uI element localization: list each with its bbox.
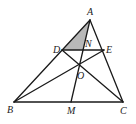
segment-ac (90, 20, 123, 102)
segment-cd (62, 50, 123, 102)
label-d: D (52, 44, 61, 55)
label-e: E (105, 44, 112, 55)
label-n: N (84, 38, 93, 49)
label-c: C (120, 105, 127, 116)
label-a: A (86, 6, 94, 17)
label-m: M (66, 105, 76, 116)
segment-be (14, 50, 104, 102)
label-o: O (77, 70, 84, 81)
segment-ab (14, 20, 90, 102)
geometry-diagram: A D N E O B M C (0, 0, 136, 124)
label-b: B (7, 104, 13, 115)
